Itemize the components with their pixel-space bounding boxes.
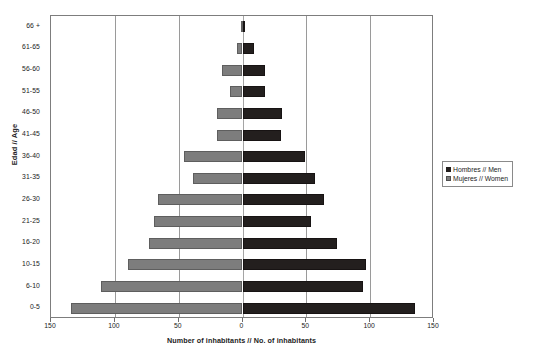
bar-men xyxy=(243,151,306,162)
bar-men xyxy=(243,303,415,314)
x-axis-tick-labels: 15010050050100150 xyxy=(50,322,433,334)
y-tick-label: 10-15 xyxy=(22,260,40,267)
x-tick-label: 150 xyxy=(427,322,438,329)
bar-row xyxy=(51,238,432,249)
bar-row xyxy=(51,303,432,314)
bar-row xyxy=(51,259,432,270)
legend-label: Mujeres // Women xyxy=(453,174,508,183)
y-tick-label: 66 + xyxy=(26,22,40,29)
bar-men xyxy=(243,130,281,141)
x-tick-label: 100 xyxy=(363,322,374,329)
bar-men xyxy=(243,86,266,97)
bar-women xyxy=(230,86,243,97)
x-tick-label: 0 xyxy=(240,322,244,329)
bar-men xyxy=(243,259,367,270)
legend-label: Hombres // Men xyxy=(453,165,501,174)
plot-area xyxy=(50,15,433,318)
bar-row xyxy=(51,216,432,227)
bar-men xyxy=(243,108,283,119)
bar-men xyxy=(243,216,312,227)
y-tick-label: 51-55 xyxy=(22,87,40,94)
bar-row xyxy=(51,281,432,292)
bar-women xyxy=(222,65,242,76)
x-tick-label: 150 xyxy=(44,322,55,329)
y-tick-label: 31-35 xyxy=(22,173,40,180)
y-tick-label: 46-50 xyxy=(22,108,40,115)
bar-row xyxy=(51,108,432,119)
y-tick-label: 6-10 xyxy=(26,282,40,289)
bar-series-container xyxy=(51,16,432,317)
bar-row xyxy=(51,151,432,162)
y-tick-label: 41-45 xyxy=(22,130,40,137)
y-tick-label: 16-20 xyxy=(22,238,40,245)
bar-men xyxy=(243,281,363,292)
bar-women xyxy=(184,151,243,162)
y-tick-label: 26-30 xyxy=(22,195,40,202)
bar-men xyxy=(243,43,254,54)
legend-item: Mujeres // Women xyxy=(446,174,508,183)
bar-women xyxy=(101,281,243,292)
bar-row xyxy=(51,43,432,54)
legend-swatch-men xyxy=(446,167,451,172)
bar-women xyxy=(128,259,243,270)
bar-men xyxy=(243,65,266,76)
bar-women xyxy=(71,303,242,314)
y-axis-tick-labels: 0-56-1010-1516-2021-2526-3031-3536-4041-… xyxy=(0,15,46,318)
bar-men xyxy=(243,238,337,249)
bar-row xyxy=(51,194,432,205)
bar-women xyxy=(149,238,242,249)
bar-women xyxy=(217,108,243,119)
legend-swatch-women xyxy=(446,176,451,181)
y-tick-label: 56-60 xyxy=(22,65,40,72)
y-tick-label: 61-65 xyxy=(22,43,40,50)
x-axis-title: Number of inhabitants // No. of inhabita… xyxy=(50,336,433,345)
bar-row xyxy=(51,65,432,76)
bar-women xyxy=(158,194,242,205)
bar-women xyxy=(154,216,242,227)
chart-legend: Hombres // MenMujeres // Women xyxy=(442,161,513,187)
x-tick-label: 50 xyxy=(174,322,182,329)
bar-women xyxy=(217,130,243,141)
bar-men xyxy=(243,173,316,184)
bar-women xyxy=(241,21,243,32)
bar-row xyxy=(51,173,432,184)
population-pyramid-figure: Edad // Age 0-56-1010-1516-2021-2526-303… xyxy=(0,0,535,363)
bar-row xyxy=(51,21,432,32)
x-tick-label: 100 xyxy=(108,322,119,329)
bar-row xyxy=(51,86,432,97)
y-tick-label: 0-5 xyxy=(30,303,40,310)
bar-row xyxy=(51,130,432,141)
x-tick-label: 50 xyxy=(302,322,310,329)
y-tick-label: 21-25 xyxy=(22,217,40,224)
bar-men xyxy=(243,194,325,205)
bar-women xyxy=(193,173,243,184)
legend-item: Hombres // Men xyxy=(446,165,508,174)
bar-women xyxy=(237,43,242,54)
y-tick-label: 36-40 xyxy=(22,152,40,159)
